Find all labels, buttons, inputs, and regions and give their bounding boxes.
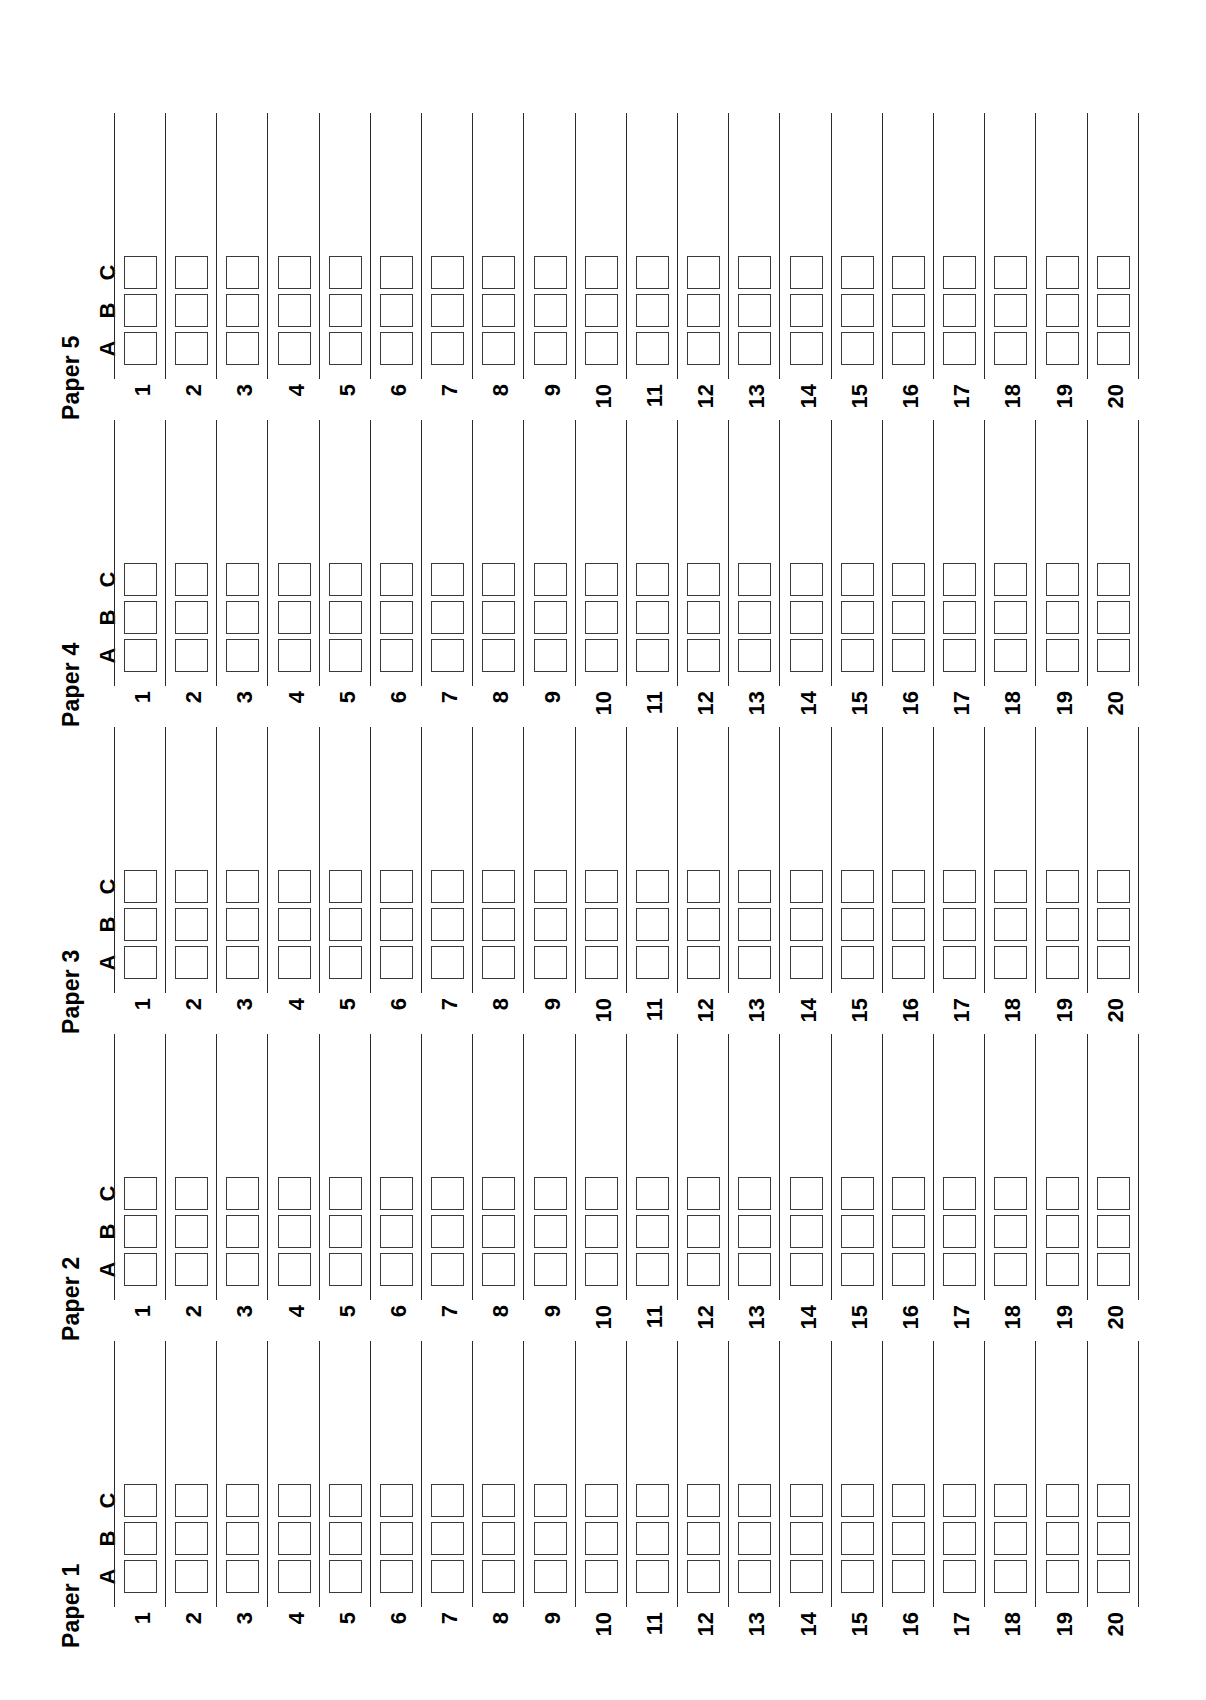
- answer-checkbox-13-c[interactable]: [738, 1177, 771, 1210]
- answer-checkbox-1-b[interactable]: [124, 1522, 157, 1555]
- answer-checkbox-11-a[interactable]: [636, 946, 669, 979]
- answer-checkbox-1-b[interactable]: [124, 908, 157, 941]
- answer-checkbox-16-a[interactable]: [892, 639, 925, 672]
- answer-checkbox-10-b[interactable]: [585, 294, 618, 327]
- answer-checkbox-19-a[interactable]: [1046, 332, 1079, 365]
- answer-checkbox-10-a[interactable]: [585, 946, 618, 979]
- answer-checkbox-7-c[interactable]: [431, 563, 464, 596]
- answer-checkbox-9-c[interactable]: [534, 563, 567, 596]
- answer-checkbox-2-a[interactable]: [175, 946, 208, 979]
- answer-checkbox-19-a[interactable]: [1046, 639, 1079, 672]
- answer-checkbox-11-c[interactable]: [636, 256, 669, 289]
- answer-checkbox-1-a[interactable]: [124, 639, 157, 672]
- answer-checkbox-6-b[interactable]: [380, 294, 413, 327]
- answer-checkbox-6-b[interactable]: [380, 601, 413, 634]
- answer-checkbox-12-a[interactable]: [687, 639, 720, 672]
- answer-checkbox-11-b[interactable]: [636, 908, 669, 941]
- answer-checkbox-12-b[interactable]: [687, 908, 720, 941]
- answer-checkbox-14-a[interactable]: [790, 946, 823, 979]
- answer-checkbox-4-c[interactable]: [278, 563, 311, 596]
- answer-checkbox-2-a[interactable]: [175, 1253, 208, 1286]
- answer-checkbox-19-b[interactable]: [1046, 601, 1079, 634]
- answer-checkbox-4-a[interactable]: [278, 639, 311, 672]
- answer-checkbox-8-a[interactable]: [482, 332, 515, 365]
- answer-checkbox-2-a[interactable]: [175, 639, 208, 672]
- answer-checkbox-17-b[interactable]: [943, 1215, 976, 1248]
- answer-checkbox-14-c[interactable]: [790, 1484, 823, 1517]
- answer-checkbox-11-b[interactable]: [636, 601, 669, 634]
- answer-checkbox-2-b[interactable]: [175, 294, 208, 327]
- answer-checkbox-5-b[interactable]: [329, 1522, 362, 1555]
- answer-checkbox-16-b[interactable]: [892, 1522, 925, 1555]
- answer-checkbox-15-c[interactable]: [841, 256, 874, 289]
- answer-checkbox-11-c[interactable]: [636, 1177, 669, 1210]
- answer-checkbox-11-c[interactable]: [636, 563, 669, 596]
- answer-checkbox-5-c[interactable]: [329, 870, 362, 903]
- answer-checkbox-11-b[interactable]: [636, 1522, 669, 1555]
- answer-checkbox-14-b[interactable]: [790, 908, 823, 941]
- answer-checkbox-12-a[interactable]: [687, 332, 720, 365]
- answer-checkbox-8-b[interactable]: [482, 1522, 515, 1555]
- answer-checkbox-17-c[interactable]: [943, 256, 976, 289]
- answer-checkbox-8-c[interactable]: [482, 870, 515, 903]
- answer-checkbox-20-a[interactable]: [1097, 946, 1130, 979]
- answer-checkbox-10-a[interactable]: [585, 332, 618, 365]
- answer-checkbox-16-c[interactable]: [892, 256, 925, 289]
- answer-checkbox-20-c[interactable]: [1097, 256, 1130, 289]
- answer-checkbox-9-a[interactable]: [534, 1253, 567, 1286]
- answer-checkbox-18-b[interactable]: [994, 908, 1027, 941]
- answer-checkbox-9-a[interactable]: [534, 332, 567, 365]
- answer-checkbox-15-b[interactable]: [841, 601, 874, 634]
- answer-checkbox-14-a[interactable]: [790, 1560, 823, 1593]
- answer-checkbox-4-b[interactable]: [278, 294, 311, 327]
- answer-checkbox-7-c[interactable]: [431, 256, 464, 289]
- answer-checkbox-9-b[interactable]: [534, 601, 567, 634]
- answer-checkbox-1-c[interactable]: [124, 1484, 157, 1517]
- answer-checkbox-20-c[interactable]: [1097, 1484, 1130, 1517]
- answer-checkbox-1-c[interactable]: [124, 256, 157, 289]
- answer-checkbox-1-b[interactable]: [124, 294, 157, 327]
- answer-checkbox-20-b[interactable]: [1097, 1215, 1130, 1248]
- answer-checkbox-19-b[interactable]: [1046, 908, 1079, 941]
- answer-checkbox-7-a[interactable]: [431, 639, 464, 672]
- answer-checkbox-4-a[interactable]: [278, 332, 311, 365]
- answer-checkbox-18-b[interactable]: [994, 1522, 1027, 1555]
- answer-checkbox-3-b[interactable]: [226, 1215, 259, 1248]
- answer-checkbox-8-c[interactable]: [482, 563, 515, 596]
- answer-checkbox-1-b[interactable]: [124, 1215, 157, 1248]
- answer-checkbox-20-b[interactable]: [1097, 294, 1130, 327]
- answer-checkbox-18-a[interactable]: [994, 1253, 1027, 1286]
- answer-checkbox-1-c[interactable]: [124, 870, 157, 903]
- answer-checkbox-3-c[interactable]: [226, 563, 259, 596]
- answer-checkbox-5-b[interactable]: [329, 294, 362, 327]
- answer-checkbox-3-b[interactable]: [226, 294, 259, 327]
- answer-checkbox-14-b[interactable]: [790, 1522, 823, 1555]
- answer-checkbox-10-c[interactable]: [585, 870, 618, 903]
- answer-checkbox-18-c[interactable]: [994, 1484, 1027, 1517]
- answer-checkbox-18-b[interactable]: [994, 294, 1027, 327]
- answer-checkbox-16-b[interactable]: [892, 1215, 925, 1248]
- answer-checkbox-15-a[interactable]: [841, 332, 874, 365]
- answer-checkbox-14-b[interactable]: [790, 601, 823, 634]
- answer-checkbox-16-c[interactable]: [892, 563, 925, 596]
- answer-checkbox-19-b[interactable]: [1046, 1215, 1079, 1248]
- answer-checkbox-5-c[interactable]: [329, 256, 362, 289]
- answer-checkbox-19-a[interactable]: [1046, 1560, 1079, 1593]
- answer-checkbox-8-c[interactable]: [482, 1484, 515, 1517]
- answer-checkbox-6-b[interactable]: [380, 1215, 413, 1248]
- answer-checkbox-9-b[interactable]: [534, 1215, 567, 1248]
- answer-checkbox-8-a[interactable]: [482, 1253, 515, 1286]
- answer-checkbox-19-a[interactable]: [1046, 946, 1079, 979]
- answer-checkbox-12-b[interactable]: [687, 1522, 720, 1555]
- answer-checkbox-18-c[interactable]: [994, 256, 1027, 289]
- answer-checkbox-13-c[interactable]: [738, 256, 771, 289]
- answer-checkbox-3-a[interactable]: [226, 332, 259, 365]
- answer-checkbox-13-c[interactable]: [738, 563, 771, 596]
- answer-checkbox-10-b[interactable]: [585, 908, 618, 941]
- answer-checkbox-11-c[interactable]: [636, 1484, 669, 1517]
- answer-checkbox-16-c[interactable]: [892, 870, 925, 903]
- answer-checkbox-6-c[interactable]: [380, 563, 413, 596]
- answer-checkbox-8-b[interactable]: [482, 601, 515, 634]
- answer-checkbox-13-b[interactable]: [738, 908, 771, 941]
- answer-checkbox-16-c[interactable]: [892, 1484, 925, 1517]
